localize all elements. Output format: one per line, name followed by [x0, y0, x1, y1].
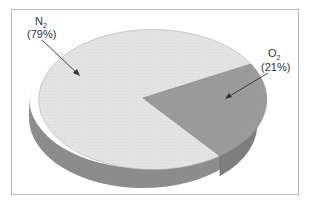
svg-text:(21%): (21%) — [261, 61, 290, 73]
svg-text:N2: N2 — [35, 15, 47, 29]
n2-label: N2 (79%) — [27, 15, 56, 40]
svg-text:O2: O2 — [268, 47, 281, 61]
svg-text:(79%): (79%) — [27, 28, 56, 40]
pie-chart: N2 (79%) O2 (21%) — [0, 0, 309, 201]
o2-label: O2 (21%) — [261, 47, 290, 73]
